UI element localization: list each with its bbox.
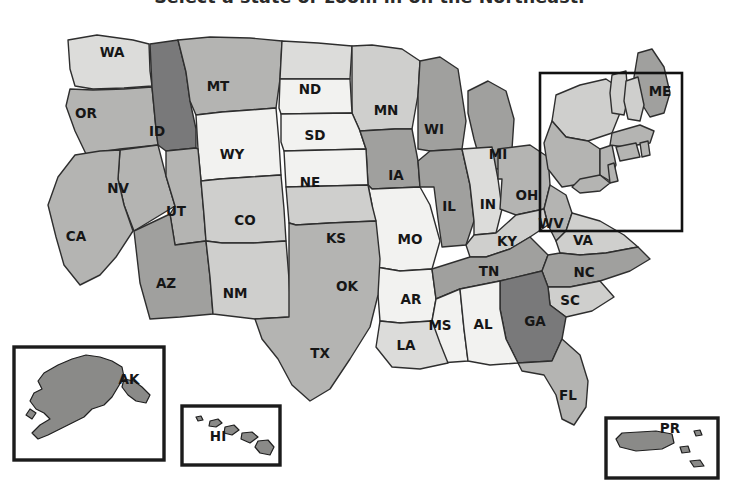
state-label-hi: HI [210,428,226,444]
state-label-mt: MT [207,78,230,94]
state-label-ky: KY [497,233,517,249]
state-label-co: CO [234,212,255,228]
state-ct[interactable] [616,143,640,161]
state-label-ga: GA [524,313,546,329]
state-label-wv: WV [538,215,564,231]
state-label-ca: CA [66,228,87,244]
state-label-la: LA [396,337,416,353]
state-label-ne: NE [300,174,321,190]
state-label-or: OR [75,105,97,121]
state-ok[interactable] [286,185,376,225]
state-wy[interactable] [196,108,281,181]
page-title: Select a state or zoom in on the Northea… [0,0,739,7]
state-nd[interactable] [280,41,352,79]
hawaii-inset-box[interactable] [182,406,280,465]
state-label-nc: NC [573,264,594,280]
hawaii-inset[interactable] [182,406,280,465]
state-label-ms: MS [428,317,451,333]
state-label-fl: FL [559,387,577,403]
state-label-il: IL [442,198,456,214]
state-mn[interactable] [352,45,420,131]
state-mt[interactable] [178,37,282,115]
state-label-va: VA [573,232,594,248]
state-label-mi: MI [489,146,507,162]
state-label-oh: OH [516,187,539,203]
state-label-nd: ND [299,81,322,97]
state-label-nv: NV [107,180,129,196]
page-title-clip: Select a state or zoom in on the Northea… [0,0,739,9]
insets-layer [14,347,718,478]
alaska-inset[interactable] [14,347,164,460]
state-label-me: ME [649,83,672,99]
state-label-pr: PR [660,420,681,436]
state-label-wy: WY [220,146,245,162]
state-label-sc: SC [560,292,580,308]
state-label-wi: WI [424,121,444,137]
state-label-ar: AR [401,291,422,307]
state-label-az: AZ [156,275,176,291]
state-label-wa: WA [100,44,125,60]
state-nm[interactable] [206,241,291,319]
state-label-ok: OK [336,278,358,294]
map-application: Select a state or zoom in on the Northea… [0,0,739,496]
state-label-in: IN [480,196,496,212]
state-label-mo: MO [398,231,423,247]
state-label-tx: TX [310,345,330,361]
state-label-mn: MN [374,102,399,118]
state-label-ia: IA [388,167,404,183]
state-label-nm: NM [223,285,248,301]
state-de[interactable] [608,163,618,183]
state-label-id: ID [149,123,165,139]
state-label-sd: SD [305,127,326,143]
state-label-tn: TN [479,263,500,279]
state-label-al: AL [473,316,492,332]
state-co[interactable] [201,175,286,243]
state-ks[interactable] [284,149,368,187]
state-label-ks: KS [326,230,346,246]
state-ri[interactable] [640,141,650,157]
state-label-ut: UT [166,203,187,219]
state-label-ak: AK [119,371,140,387]
us-map-svg[interactable]: WAORIDMTNDMNWIMISDWYNVUTCONEIAILINOHWVVA… [0,9,739,496]
map-stage[interactable]: WAORIDMTNDMNWIMISDWYNVUTCONEIAILINOHWVVA… [0,9,739,496]
